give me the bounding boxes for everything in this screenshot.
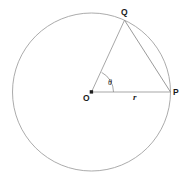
label-point-q: Q	[121, 7, 128, 17]
center-point-marker	[90, 90, 93, 93]
label-point-o: O	[83, 93, 90, 103]
geometry-diagram: O P Q r θ	[0, 0, 187, 183]
label-radius-r: r	[133, 92, 137, 102]
label-angle-theta: θ	[108, 78, 112, 87]
label-point-p: P	[173, 87, 179, 97]
figure-container: O P Q r θ	[0, 0, 187, 183]
chord-qp-line	[125, 20, 171, 92]
